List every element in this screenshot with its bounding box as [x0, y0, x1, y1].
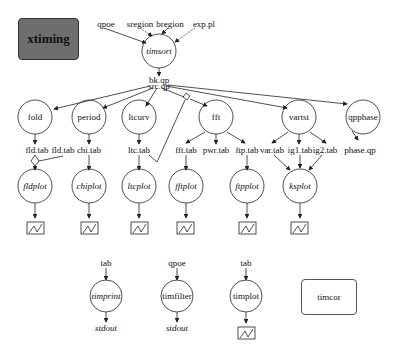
- xtiming-title-box: xtiming: [18, 18, 79, 60]
- node-timsort[interactable]: timsort: [146, 47, 172, 56]
- output-stdout-2: stdout: [166, 324, 188, 333]
- output-stdout-1: stdout: [95, 324, 117, 333]
- input-bregion: bregion: [156, 20, 184, 29]
- output-fld-tab-2: fld.tab: [51, 146, 74, 155]
- node-ltcurv[interactable]: ltcurv: [129, 113, 150, 122]
- node-timfilter[interactable]: timfilter: [162, 292, 192, 301]
- node-ftpplot[interactable]: ftpplot: [235, 182, 259, 191]
- input-exp-pl: exp.pl: [193, 20, 215, 29]
- xtiming-diagram: xtiming qpoe sregion bregion exp.pl tims…: [0, 0, 394, 358]
- output-ltc-tab: ltc.tab: [128, 146, 150, 155]
- output-ftp-tab: ftp.tab: [235, 146, 258, 155]
- node-fftplot[interactable]: fftplot: [175, 182, 197, 191]
- output-src-qp: src.qp: [148, 82, 170, 91]
- output-var-tab: var.tab: [260, 146, 284, 155]
- node-timprint[interactable]: timprint: [91, 292, 120, 301]
- node-timcor[interactable]: timcor: [301, 279, 357, 315]
- timcor-label: timcor: [317, 292, 341, 302]
- output-ig2-tab: ig2.tab: [313, 146, 338, 155]
- output-ig1-tab: ig1.tab: [288, 146, 313, 155]
- node-timplot[interactable]: timplot: [233, 292, 259, 301]
- node-fold[interactable]: fold: [28, 113, 43, 122]
- graph-icons: [27, 222, 308, 339]
- input-qpoe: qpoe: [97, 20, 115, 29]
- output-fft-tab: fft.tab: [175, 146, 197, 155]
- input-qpoe-timfilter: qpoe: [168, 259, 186, 268]
- node-fft[interactable]: fft: [212, 113, 220, 122]
- node-ksplot[interactable]: ksplot: [289, 182, 311, 191]
- output-phase-qp: phase.qp: [344, 146, 376, 155]
- node-fldplot[interactable]: fldplot: [23, 182, 47, 191]
- output-chi-tab: chi.tab: [77, 146, 101, 155]
- node-chiplot[interactable]: chiplot: [77, 182, 102, 191]
- node-ltcplot[interactable]: ltcplot: [128, 182, 151, 191]
- title: xtiming: [27, 31, 70, 47]
- output-fld-tab-1: fld.tab: [25, 146, 48, 155]
- input-tab-timplot: tab: [241, 259, 252, 268]
- output-pwr-tab: pwr.tab: [203, 146, 230, 155]
- input-sregion: sregion: [127, 20, 154, 29]
- node-vartst[interactable]: vartst: [289, 113, 309, 122]
- node-period[interactable]: period: [78, 113, 101, 122]
- input-tab-timprint: tab: [101, 259, 112, 268]
- node-qpphase[interactable]: qpphase: [348, 113, 378, 122]
